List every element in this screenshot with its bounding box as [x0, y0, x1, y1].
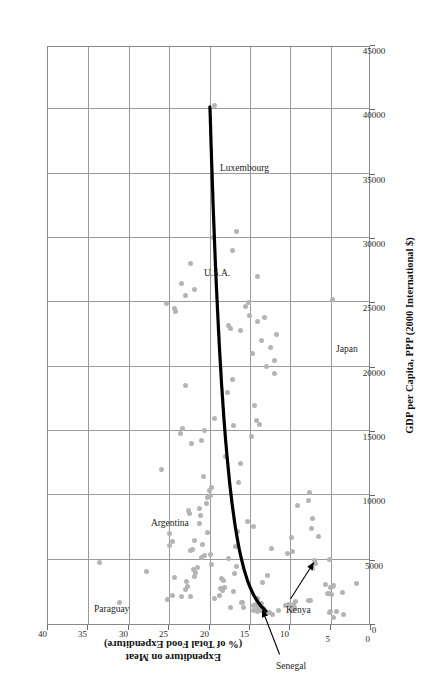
y-axis-title-line2: (% of Total Food Expenditure)	[0, 638, 353, 651]
y-tick-mark	[87, 625, 88, 630]
y-tick-mark	[370, 625, 371, 630]
y-axis-title: Expenditure on Meat (% of Total Food Exp…	[0, 638, 353, 664]
y-axis-title-line1: Expenditure on Meat	[0, 651, 353, 664]
x-tick-label: 0	[372, 625, 377, 635]
x-tick-label: 5000	[365, 561, 383, 571]
x-tick-label: 20000	[363, 368, 386, 378]
annotation-arrow-kenya	[290, 563, 313, 599]
figure: ParaguayArgentinaU.S.A.LuxembourgJapanSe…	[0, 0, 433, 699]
x-tick-label: 45000	[363, 46, 386, 56]
y-tick-mark	[47, 625, 48, 630]
x-tick-label: 10000	[363, 496, 386, 506]
x-tick-label: 30000	[363, 239, 386, 249]
x-tick-label: 15000	[363, 432, 386, 442]
annotation-arrows	[48, 45, 371, 624]
x-tick-label: 40000	[363, 110, 386, 120]
plot-area: ParaguayArgentinaU.S.A.LuxembourgJapanSe…	[47, 46, 370, 625]
x-tick-label: 25000	[363, 303, 386, 313]
y-tick-label: 0	[366, 634, 371, 644]
chart-page: ParaguayArgentinaU.S.A.LuxembourgJapanSe…	[0, 0, 433, 699]
y-tick-mark	[168, 625, 169, 630]
y-tick-mark	[330, 625, 331, 630]
y-tick-mark	[249, 625, 250, 630]
x-tick-label: 35000	[363, 175, 386, 185]
rotated-figure-wrapper: ParaguayArgentinaU.S.A.LuxembourgJapanSe…	[0, 0, 433, 699]
x-axis-title: GDP per Capita, PPP (2000 International …	[404, 46, 415, 625]
y-tick-mark	[289, 625, 290, 630]
